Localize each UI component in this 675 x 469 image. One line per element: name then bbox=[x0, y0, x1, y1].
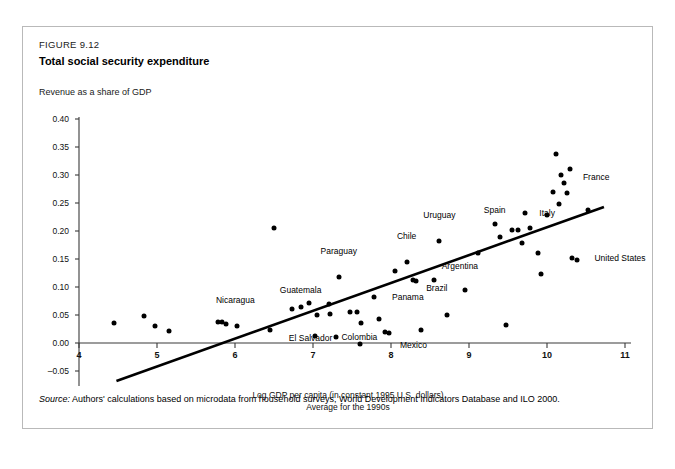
data-point bbox=[556, 202, 561, 207]
data-point bbox=[326, 302, 331, 307]
data-point-label: Uruguay bbox=[423, 210, 455, 220]
data-point bbox=[538, 271, 543, 276]
data-point bbox=[357, 342, 362, 347]
data-point bbox=[551, 189, 556, 194]
trendline bbox=[116, 207, 604, 381]
data-point-label: United States bbox=[594, 253, 645, 263]
data-point-label: Spain bbox=[484, 205, 506, 215]
data-point-label: Mexico bbox=[400, 340, 427, 350]
data-point-label: Argentina bbox=[442, 261, 478, 271]
y-tick-label: 0.05 bbox=[35, 310, 69, 320]
x-tick-label: 8 bbox=[382, 350, 400, 360]
data-point-label: Paraguay bbox=[321, 246, 357, 256]
data-point bbox=[268, 327, 273, 332]
data-point bbox=[314, 313, 319, 318]
data-point bbox=[112, 321, 117, 326]
data-point bbox=[223, 321, 228, 326]
data-point bbox=[509, 227, 514, 232]
data-point bbox=[568, 167, 573, 172]
data-point bbox=[554, 151, 559, 156]
data-point bbox=[336, 274, 341, 279]
data-point bbox=[445, 313, 450, 318]
data-point bbox=[504, 322, 509, 327]
data-point bbox=[307, 300, 312, 305]
data-point bbox=[492, 222, 497, 227]
data-point bbox=[523, 211, 528, 216]
x-tick-label: 9 bbox=[460, 350, 478, 360]
data-point bbox=[289, 307, 294, 312]
data-point bbox=[334, 334, 339, 339]
data-point bbox=[559, 173, 564, 178]
data-point-label: Chile bbox=[397, 231, 416, 241]
data-point-label: Brazil bbox=[426, 283, 447, 293]
x-tick-label: 7 bbox=[304, 350, 322, 360]
data-point bbox=[348, 309, 353, 314]
data-point bbox=[527, 226, 532, 231]
data-point bbox=[392, 269, 397, 274]
data-point bbox=[585, 207, 590, 212]
data-point bbox=[498, 234, 503, 239]
source-text: Authors' calculations based on microdata… bbox=[72, 394, 560, 404]
y-tick-label: 0.20 bbox=[35, 226, 69, 236]
data-point-label: Guatemala bbox=[280, 285, 322, 295]
data-point-label: El Salvador bbox=[289, 333, 332, 343]
source-note: Source: Authors' calculations based on m… bbox=[39, 394, 560, 404]
data-point bbox=[371, 295, 376, 300]
y-tick-label: 0.30 bbox=[35, 170, 69, 180]
data-point bbox=[437, 239, 442, 244]
x-tick-label: 4 bbox=[70, 350, 88, 360]
data-point bbox=[545, 213, 550, 218]
data-point bbox=[431, 277, 436, 282]
data-point bbox=[387, 330, 392, 335]
x-tick-label: 5 bbox=[148, 350, 166, 360]
scatter-plot: –0.050.000.050.100.150.200.250.300.350.4… bbox=[23, 27, 654, 430]
y-tick-label: 0.25 bbox=[35, 198, 69, 208]
data-point-label: Colombia bbox=[341, 332, 377, 342]
data-point bbox=[272, 226, 277, 231]
x-tick-label: 11 bbox=[616, 350, 634, 360]
source-label: Source: bbox=[39, 394, 70, 404]
y-tick-label: –0.05 bbox=[35, 366, 69, 376]
x-tick-label: 6 bbox=[226, 350, 244, 360]
data-point bbox=[418, 328, 423, 333]
data-point bbox=[535, 251, 540, 256]
data-point bbox=[166, 328, 171, 333]
data-point bbox=[404, 260, 409, 265]
data-point bbox=[359, 320, 364, 325]
data-point-label: Panama bbox=[392, 292, 424, 302]
y-tick-label: 0.10 bbox=[35, 282, 69, 292]
data-point bbox=[516, 227, 521, 232]
data-point bbox=[235, 323, 240, 328]
data-point bbox=[354, 309, 359, 314]
y-tick-label: 0.35 bbox=[35, 142, 69, 152]
chart-canvas bbox=[23, 27, 654, 430]
data-point bbox=[299, 304, 304, 309]
data-point bbox=[520, 241, 525, 246]
data-point bbox=[565, 190, 570, 195]
data-point bbox=[153, 324, 158, 329]
data-point bbox=[476, 251, 481, 256]
y-tick-label: 0.00 bbox=[35, 338, 69, 348]
data-point-label: Nicaragua bbox=[216, 295, 255, 305]
data-point-label: France bbox=[583, 172, 609, 182]
y-tick-label: 0.40 bbox=[35, 114, 69, 124]
data-point bbox=[413, 279, 418, 284]
data-point bbox=[141, 313, 146, 318]
data-point bbox=[562, 181, 567, 186]
x-tick-label: 10 bbox=[538, 350, 556, 360]
y-tick-label: 0.15 bbox=[35, 254, 69, 264]
data-point bbox=[574, 258, 579, 263]
figure-card: FIGURE 9.12 Total social security expend… bbox=[22, 26, 653, 429]
data-point bbox=[463, 287, 468, 292]
data-point bbox=[328, 311, 333, 316]
data-point bbox=[377, 317, 382, 322]
